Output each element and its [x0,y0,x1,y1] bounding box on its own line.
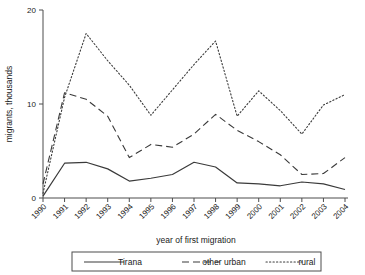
series-line-Tirana [43,162,345,196]
chart-legend: Tiranaother urbanrural [72,252,321,271]
legend-label-rural: rural [298,257,315,267]
x-tick-label: 1996 [159,202,178,221]
x-axis-title: year of first migration [156,235,236,245]
series-line-other-urban [43,93,345,184]
legend-label-other-urban: other urban [202,257,246,267]
x-tick-label: 2004 [331,202,350,221]
x-tick-label: 1991 [51,202,70,221]
x-tick-label: 2002 [288,202,307,221]
y-tick-group: 01020 [27,6,43,203]
x-tick-label: 1993 [94,202,113,221]
y-axis-title: migrants, thousands [4,66,14,143]
x-tick-label: 2001 [267,202,286,221]
x-tick-label: 1990 [29,202,48,221]
y-tick-label: 10 [27,100,36,109]
legend-label-Tirana: Tirana [118,257,142,267]
chart-axes [43,10,348,198]
x-tick-label: 1995 [137,202,156,221]
x-tick-label: 1997 [180,202,199,221]
x-tick-label: 1994 [116,202,135,221]
y-tick-label: 0 [32,194,37,203]
legend-entries: Tiranaother urbanrural [84,257,316,267]
data-series-group [43,34,345,197]
x-tick-label: 2003 [310,202,329,221]
migration-line-chart: 01020 1990199119921993199419951996199719… [0,0,365,275]
x-tick-label: 1999 [224,202,243,221]
series-line-rural [43,34,345,194]
x-tick-group: 1990199119921993199419951996199719981999… [29,198,350,221]
x-tick-label: 1998 [202,202,221,221]
x-tick-label: 2000 [245,202,264,221]
x-tick-label: 1992 [73,202,92,221]
y-tick-label: 20 [27,6,36,15]
